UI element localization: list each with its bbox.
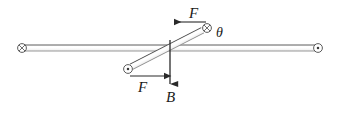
lower-rod-end-out-of-page-icon xyxy=(124,65,133,74)
upper-rod-end-into-page-icon xyxy=(203,24,212,33)
right-end-out-of-page-icon xyxy=(314,44,323,53)
angle-label: θ xyxy=(216,26,223,40)
force-label-top: F xyxy=(189,6,198,21)
field-label: B xyxy=(166,90,175,105)
physics-figure: F F B θ xyxy=(0,0,341,114)
left-end-into-page-icon xyxy=(18,44,27,53)
force-label-bottom: F xyxy=(138,80,147,95)
